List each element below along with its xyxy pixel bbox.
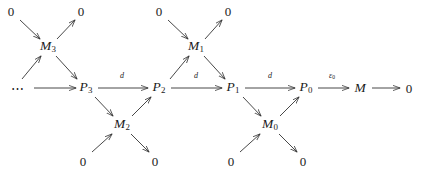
edge-label-d-p3-p2: d	[120, 72, 124, 80]
arrow-zero-top-1-to-m3	[20, 20, 40, 39]
node-proj-p3: P3	[79, 80, 92, 95]
node-zero-bot-1: 0	[80, 155, 87, 168]
node-label: M	[354, 80, 365, 95]
node-module-m2: M2	[114, 117, 130, 132]
node-subscript: 1	[200, 45, 204, 55]
node-ellipsis: ⋯	[11, 82, 26, 95]
arrow-m3-to-p3	[56, 56, 77, 79]
arrow-p1-to-m0	[243, 97, 261, 116]
node-proj-p2: P2	[152, 80, 165, 95]
edge-label-text: d	[194, 71, 198, 80]
edge-label-subscript: 0	[332, 74, 335, 80]
node-subscript: 3	[88, 86, 92, 96]
arrow-m0-to-p0	[280, 97, 299, 116]
node-subscript: 0	[274, 123, 278, 133]
node-zero-bot-3: 0	[228, 155, 235, 168]
arrow-m1-to-p1	[204, 56, 225, 79]
node-proj-p0: P0	[299, 80, 312, 95]
arrow-p4-to-m3	[22, 56, 41, 79]
edge-label-text: d	[120, 71, 124, 80]
edge-label-text: d	[268, 71, 272, 80]
node-zero-top-4: 0	[225, 5, 232, 18]
arrow-zero-top-3-to-m1	[168, 20, 188, 39]
commutative-diagram: 0000M3M1⋯P3P2P1P0M0M2M00000 dddε0	[0, 0, 421, 174]
edge-label-d-p2-p1: d	[194, 72, 198, 80]
node-label: 0	[225, 4, 232, 19]
node-subscript: 0	[308, 86, 312, 96]
node-subscript: 2	[126, 123, 130, 133]
arrow-m2-to-zero-bot-2	[131, 134, 149, 152]
node-label: 0	[228, 154, 235, 169]
node-label: 0	[80, 154, 87, 169]
node-label: P	[299, 79, 307, 94]
node-zero-top-3: 0	[156, 5, 163, 18]
node-label: P	[79, 79, 87, 94]
node-label: 0	[8, 4, 15, 19]
node-label: M	[188, 38, 199, 53]
node-label: P	[152, 79, 160, 94]
node-label: M	[114, 116, 125, 131]
node-module-m0: M0	[262, 117, 278, 132]
node-zero-top-1: 0	[8, 5, 15, 18]
edge-label-epsilon-p0-m: ε0	[329, 72, 335, 81]
node-module-m3: M3	[40, 39, 56, 54]
arrow-m0-to-zero-bot-4	[279, 134, 297, 152]
node-zero-end: 0	[406, 82, 413, 95]
node-label: 0	[156, 4, 163, 19]
node-zero-bot-4: 0	[300, 155, 307, 168]
node-label: 0	[78, 4, 85, 19]
arrow-m3-to-zero-top-2	[57, 20, 75, 39]
arrow-zero-bot-1-to-m2	[92, 134, 112, 152]
node-zero-top-2: 0	[78, 5, 85, 18]
edge-label-d-p1-p0: d	[268, 72, 272, 80]
node-subscript: 1	[235, 86, 239, 96]
node-subscript: 2	[161, 86, 165, 96]
node-label: P	[226, 79, 234, 94]
node-module-m1: M1	[188, 39, 204, 54]
arrow-p3-to-m2	[95, 97, 113, 116]
node-label: 0	[152, 154, 159, 169]
arrow-p2-to-m1	[170, 56, 189, 79]
arrow-zero-bot-3-to-m0	[240, 134, 260, 152]
node-label: M	[262, 116, 273, 131]
node-label: ⋯	[11, 81, 26, 96]
node-module-m: M	[354, 81, 365, 95]
node-label: M	[40, 38, 51, 53]
arrow-m2-to-p2	[132, 97, 151, 116]
arrow-m1-to-zero-top-4	[205, 20, 222, 39]
node-subscript: 3	[52, 45, 56, 55]
node-label: 0	[406, 81, 413, 96]
node-label: 0	[300, 154, 307, 169]
node-zero-bot-2: 0	[152, 155, 159, 168]
node-proj-p1: P1	[226, 80, 239, 95]
